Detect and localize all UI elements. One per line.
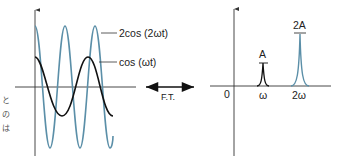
fourier-transform-diagram: と の は 2cos (2ωt) cos (ωt) F.T. 0 ω 2ω A [0, 0, 345, 166]
frequency-domain-plot: 0 ω 2ω A 2A [210, 9, 331, 156]
origin-label: 0 [224, 88, 230, 100]
label-cos-wt: cos (ωt) [119, 56, 156, 68]
peak-2omega [291, 34, 309, 86]
tick-2omega: 2ω [292, 89, 306, 101]
peak-omega [257, 63, 269, 86]
margin-char-1: と [2, 96, 10, 105]
fourier-transform-arrow: F.T. [146, 87, 194, 102]
ft-label: F.T. [161, 92, 175, 102]
peak-2omega-label: 2A [293, 19, 306, 31]
time-domain-plot: 2cos (2ωt) cos (ωt) [15, 10, 168, 156]
margin-char-3: は [2, 124, 10, 133]
peak-omega-label: A [259, 48, 266, 60]
margin-text: と の は [2, 96, 10, 133]
label-2cos-2wt: 2cos (2ωt) [119, 27, 168, 39]
tick-omega: ω [259, 89, 267, 101]
margin-char-2: の [2, 110, 10, 119]
